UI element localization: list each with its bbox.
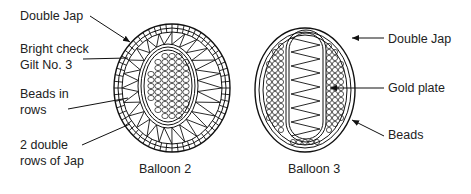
caption-balloon-3: Balloon 3 (288, 162, 340, 176)
balloon-2-leaders (68, 16, 130, 145)
label-gold-plate: Gold plate (388, 80, 445, 96)
balloon-2-drawing (114, 24, 230, 152)
caption-balloon-2: Balloon 2 (139, 162, 191, 176)
balloon-3-drawing (255, 28, 355, 152)
balloon-diagram: Double Jap Bright check Gilt No. 3 Beads… (0, 0, 471, 194)
balloon-3-leaders (330, 38, 384, 136)
label-bright-check-gilt: Bright check Gilt No. 3 (20, 41, 89, 73)
label-double-rows-jap: 2 double rows of Jap (20, 137, 84, 169)
label-double-jap-b3: Double Jap (388, 31, 451, 47)
label-beads-in-rows: Beads in rows (20, 86, 69, 118)
label-beads: Beads (388, 127, 423, 143)
label-double-jap-b2: Double Jap (20, 8, 83, 24)
